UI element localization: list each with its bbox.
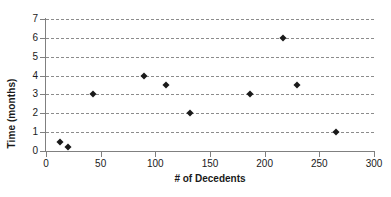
x-tick-200: [265, 152, 266, 157]
y-tick-label-6: 6: [4, 33, 38, 43]
x-tick-label-50: 50: [81, 158, 121, 170]
x-tick-50: [101, 152, 102, 157]
data-point: [247, 91, 254, 98]
y-tick-3: [40, 94, 45, 95]
data-point: [141, 72, 148, 79]
y-tick-label-4: 4: [4, 71, 38, 81]
x-tick-label-250: 250: [299, 158, 339, 170]
x-tick-label-150: 150: [190, 158, 230, 170]
y-tick-2: [40, 113, 45, 114]
x-tick-label-300: 300: [354, 158, 391, 170]
x-tick-150: [210, 152, 211, 157]
x-tick-100: [155, 152, 156, 157]
gridline-y-6: [46, 38, 374, 39]
x-tick-300: [374, 152, 375, 157]
data-point: [187, 110, 194, 117]
data-point: [64, 144, 71, 151]
y-tick-7: [40, 19, 45, 20]
data-point: [89, 91, 96, 98]
gridline-y-4: [46, 76, 374, 77]
y-tick-label-3: 3: [4, 89, 38, 99]
x-tick-label-wrap-200: 200: [245, 158, 285, 170]
x-tick-label-0: 0: [26, 158, 66, 170]
y-tick-label-1: 1: [4, 127, 38, 137]
x-tick-label-200: 200: [245, 158, 285, 170]
data-point: [280, 34, 287, 41]
x-axis-title: # of Decedents: [46, 173, 374, 184]
x-tick-0: [46, 152, 47, 157]
x-tick-250: [319, 152, 320, 157]
data-point: [294, 81, 301, 88]
scatter-chart: Time (months) 01234567050100150200250300…: [0, 0, 391, 197]
data-point: [57, 138, 64, 145]
data-point: [163, 81, 170, 88]
y-tick-label-2: 2: [4, 108, 38, 118]
x-tick-label-wrap-300: 300: [354, 158, 391, 170]
y-tick-6: [40, 38, 45, 39]
x-tick-label-wrap-150: 150: [190, 158, 230, 170]
plot-area: [46, 19, 374, 151]
y-tick-label-7: 7: [4, 14, 38, 24]
gridline-y-1: [46, 132, 374, 133]
x-tick-label-wrap-100: 100: [135, 158, 175, 170]
data-point: [332, 129, 339, 136]
y-tick-4: [40, 76, 45, 77]
gridline-y-2: [46, 113, 374, 114]
x-tick-label-100: 100: [135, 158, 175, 170]
gridline-y-5: [46, 57, 374, 58]
y-tick-label-5: 5: [4, 52, 38, 62]
y-tick-label-0: 0: [4, 146, 38, 156]
x-tick-label-wrap-50: 50: [81, 158, 121, 170]
x-tick-label-wrap-0: 0: [26, 158, 66, 170]
y-tick-5: [40, 57, 45, 58]
gridline-y-7: [46, 19, 374, 20]
x-tick-label-wrap-250: 250: [299, 158, 339, 170]
y-tick-1: [40, 132, 45, 133]
y-tick-0: [40, 151, 45, 152]
